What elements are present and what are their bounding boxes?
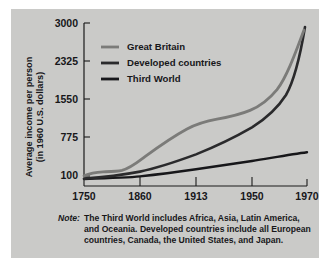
note-line-2: and Oceania. Developed countries include… (84, 224, 311, 234)
legend-label-third-world: Third World (127, 73, 181, 84)
y-tick-label-1550: 1550 (55, 93, 79, 105)
chart-legend: Great Britain Developed countries Third … (101, 41, 221, 84)
x-tick-label-1970: 1970 (295, 190, 319, 202)
x-tick-label-1950: 1950 (240, 190, 264, 202)
legend-label-developed-countries: Developed countries (127, 57, 221, 68)
chart-note: Note: The Third World includes Africa, A… (58, 213, 311, 245)
y-tick-label-3000: 3000 (55, 17, 79, 29)
y-axis-title: Average income per person (in 1960 U.S. … (24, 56, 45, 177)
note-line-1: The Third World includes Africa, Asia, L… (84, 213, 300, 223)
x-tick-label-1750: 1750 (72, 190, 96, 202)
chart-figure: Average income per person (in 1960 U.S. … (11, 9, 319, 258)
y-tick-label-775: 775 (60, 131, 78, 143)
x-tick-label-1860: 1860 (128, 190, 152, 202)
note-line-3: countries, Canada, the United States, an… (84, 235, 283, 245)
y-axis-title-line1: Average income per person (24, 56, 34, 177)
income-line-chart: Average income per person (in 1960 U.S. … (11, 9, 319, 258)
y-tick-label-2325: 2325 (55, 55, 79, 67)
note-label: Note: (58, 213, 80, 223)
y-axis-tick-labels: 3000 2325 1550 775 100 (55, 17, 79, 181)
y-axis-ticks (84, 23, 90, 176)
y-axis-title-line2: (in 1960 U.S. dollars) (35, 72, 45, 162)
series-line-developed-countries (84, 27, 305, 179)
legend-label-great-britain: Great Britain (127, 41, 185, 52)
x-tick-label-1913: 1913 (184, 190, 208, 202)
chart-plot-area: Average income per person (in 1960 U.S. … (11, 9, 319, 258)
y-tick-label-100: 100 (60, 169, 78, 181)
x-axis-tick-labels: 1750 1860 1913 1950 1970 (72, 190, 319, 202)
